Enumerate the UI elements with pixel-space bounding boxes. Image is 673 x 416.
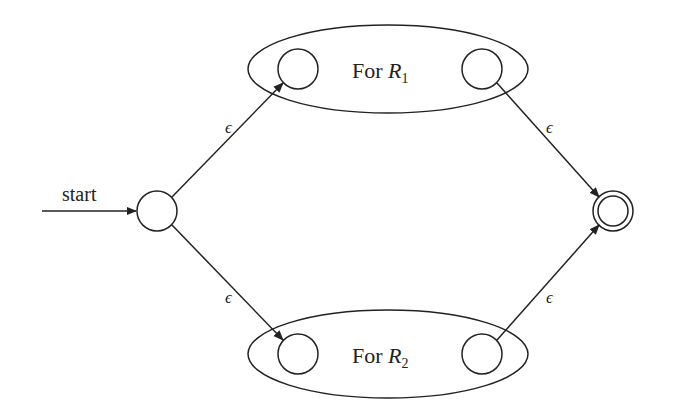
epsilon-label-2: ϵ	[225, 288, 233, 307]
box-r2: For R2	[248, 310, 528, 398]
box-r1-label: For R1	[352, 58, 409, 86]
epsilon-label-1: ϵ	[225, 118, 233, 137]
box-r2-label: For R2	[352, 343, 409, 371]
box-r1: For R1	[248, 25, 528, 113]
state-r1-final[interactable]	[462, 49, 502, 89]
state-r1-start[interactable]	[278, 49, 318, 89]
edge-r1-final	[497, 83, 599, 197]
edge-start-r2	[172, 225, 283, 340]
epsilon-label-3: ϵ	[546, 118, 554, 137]
start-label: start	[62, 183, 97, 205]
state-r2-start[interactable]	[278, 334, 318, 374]
edge-start-r1	[172, 83, 283, 197]
state-start[interactable]	[137, 191, 177, 231]
state-r2-final[interactable]	[462, 334, 502, 374]
nfa-diagram: For R1 For R2 start ϵ ϵ ϵ ϵ	[0, 0, 673, 416]
edge-r2-final	[497, 225, 599, 340]
epsilon-label-4: ϵ	[546, 288, 554, 307]
